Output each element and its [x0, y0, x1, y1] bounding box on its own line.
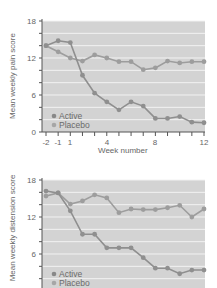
data-point-placebo [153, 65, 158, 70]
data-point-active [80, 73, 85, 78]
data-point-placebo [117, 210, 122, 215]
data-point-placebo [56, 49, 61, 54]
data-point-placebo [202, 59, 207, 64]
data-point-placebo [104, 195, 109, 200]
data-point-active [177, 114, 182, 119]
y-tick-6: 6 [32, 91, 37, 100]
data-point-active [202, 120, 207, 125]
data-point-active [104, 99, 109, 104]
data-point-active [202, 268, 207, 273]
data-point-placebo [189, 215, 194, 220]
data-point-placebo [92, 192, 97, 197]
data-point-placebo [68, 202, 73, 207]
data-point-active [92, 232, 97, 237]
distension-score-svg: Mean weekly distension score 18 12 6 Act… [0, 160, 217, 288]
data-point-active [153, 266, 158, 271]
data-point-active [68, 40, 73, 45]
distension-score-chart: Mean weekly distension score 18 12 6 Act… [0, 160, 217, 288]
data-point-placebo [141, 207, 146, 212]
legend-active-marker-icon [52, 114, 57, 119]
data-point-placebo [80, 199, 85, 204]
legend-placebo-marker-icon [52, 123, 57, 128]
data-point-active [141, 104, 146, 109]
x-tick-minus2: -2 [42, 138, 50, 147]
x-tick-1: 1 [68, 138, 73, 147]
data-point-active [44, 43, 49, 48]
data-point-active [80, 232, 85, 237]
data-point-placebo [141, 67, 146, 72]
data-point-active [129, 245, 134, 250]
x-tick-12: 12 [200, 138, 209, 147]
data-point-active [189, 268, 194, 273]
data-point-placebo [153, 207, 158, 212]
data-point-active [141, 255, 146, 260]
data-point-active [129, 99, 134, 104]
data-point-placebo [177, 203, 182, 208]
data-point-active [189, 120, 194, 125]
y-tick-12: 12 [27, 213, 36, 222]
legend-placebo: Placebo [59, 278, 90, 288]
legend-active-marker-icon [52, 272, 57, 277]
data-point-active [117, 107, 122, 112]
pain-score-svg: Mean weekly pain score 18 12 6 0 -2 -1 1… [0, 0, 217, 150]
y-tick-0: 0 [32, 128, 37, 137]
x-axis-title: Week number [98, 146, 148, 155]
data-point-placebo [68, 56, 73, 61]
data-point-active [44, 189, 49, 194]
data-point-active [165, 266, 170, 271]
data-point-active [153, 116, 158, 121]
data-point-active [104, 245, 109, 250]
data-point-active [165, 116, 170, 121]
y-axis-label: Mean weekly pain score [8, 33, 17, 119]
data-point-placebo [80, 59, 85, 64]
x-tick-8: 8 [153, 138, 158, 147]
y-tick-6: 6 [32, 250, 37, 259]
x-tick-minus1: -1 [54, 138, 62, 147]
data-point-active [56, 191, 61, 196]
y-tick-18: 18 [27, 17, 36, 26]
data-point-active [177, 271, 182, 276]
data-point-placebo [104, 56, 109, 61]
data-point-placebo [165, 59, 170, 64]
legend-placebo-marker-icon [52, 281, 57, 286]
y-tick-12: 12 [27, 54, 36, 63]
data-point-active [68, 208, 73, 213]
data-point-active [92, 91, 97, 96]
data-point-placebo [189, 59, 194, 64]
data-point-placebo [177, 61, 182, 66]
data-point-placebo [202, 207, 207, 212]
data-point-active [56, 38, 61, 43]
y-axis-label: Mean weekly distension score [8, 174, 17, 281]
data-point-placebo [44, 194, 49, 199]
data-point-active [117, 245, 122, 250]
data-point-placebo [129, 59, 134, 64]
legend-placebo: Placebo [59, 120, 90, 130]
data-point-placebo [117, 59, 122, 64]
data-point-placebo [129, 207, 134, 212]
data-point-placebo [92, 53, 97, 58]
pain-score-chart: Mean weekly pain score 18 12 6 0 -2 -1 1… [0, 0, 217, 150]
data-point-placebo [165, 205, 170, 210]
y-tick-18: 18 [27, 176, 36, 185]
